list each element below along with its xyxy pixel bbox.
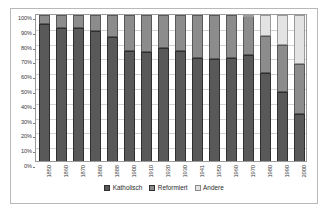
bar-stack [39,15,51,161]
legend-item[interactable]: Reformiert [149,185,187,191]
bar-segment-reformiert[interactable] [107,15,119,37]
y-tick-label: 70% [21,61,32,67]
plot-area [35,14,307,162]
bar-stack [294,15,306,161]
bar-segment-katholisch[interactable] [226,58,238,162]
bar-column[interactable] [56,15,68,161]
bar-column[interactable] [175,15,187,161]
bar-segment-katholisch[interactable] [141,52,153,162]
legend-item[interactable]: Katholisch [104,185,142,191]
y-axis: 100%90%80%70%60%50%40%30%20%10%0% [11,14,35,162]
x-tick-label: 1980 [267,165,273,178]
bar-segment-katholisch[interactable] [73,28,85,162]
bar-stack [107,15,119,161]
x-tick-label: 1930 [182,165,188,178]
bar-column[interactable] [90,15,102,161]
bar-segment-katholisch[interactable] [39,24,51,162]
bar-column[interactable] [294,15,306,161]
bar-segment-reformiert[interactable] [124,15,136,51]
x-tick-label: 1900 [131,165,137,178]
bar-segment-katholisch[interactable] [90,31,102,162]
legend-label: Andere [203,185,224,191]
x-tick-label: 1941 [199,165,205,178]
bar-segment-reformiert[interactable] [294,64,306,114]
bar-column[interactable] [107,15,119,161]
bar-segment-andere[interactable] [277,15,289,45]
legend-label: Katholisch [113,185,143,191]
y-tick-label: 60% [21,75,32,81]
bar-segment-katholisch[interactable] [260,73,272,162]
bar-column[interactable] [39,15,51,161]
bar-segment-reformiert[interactable] [209,15,221,59]
bar-segment-reformiert[interactable] [226,15,238,58]
bar-column[interactable] [158,15,170,161]
bar-segment-reformiert[interactable] [90,15,102,31]
chart-legend: KatholischReformiertAndere [11,185,317,191]
bar-stack [277,15,289,161]
chart-frame: 100%90%80%70%60%50%40%30%20%10%0% 185018… [10,8,318,204]
bar-column[interactable] [192,15,204,161]
y-tick-label: 90% [21,31,32,37]
legend-swatch-icon [149,185,155,191]
x-tick-label: 1990 [284,165,290,178]
bar-segment-katholisch[interactable] [192,58,204,162]
bar-column[interactable] [260,15,272,161]
x-tick-label: 1950 [216,165,222,178]
y-tick-label: 20% [21,135,32,141]
x-tick-label: 1910 [148,165,154,178]
bar-column[interactable] [209,15,221,161]
bar-column[interactable] [73,15,85,161]
bar-segment-reformiert[interactable] [175,15,187,51]
plot-wrap [35,14,307,162]
bar-segment-reformiert[interactable] [56,15,68,28]
bar-stack [175,15,187,161]
bar-column[interactable] [243,15,255,161]
bar-segment-katholisch[interactable] [107,37,119,162]
bar-segment-reformiert[interactable] [141,15,153,52]
bar-stack [141,15,153,161]
bar-segment-reformiert[interactable] [39,15,51,24]
y-tick-label: 0% [24,164,32,170]
bar-segment-katholisch[interactable] [243,55,255,162]
bar-stack [56,15,68,161]
bar-segment-katholisch[interactable] [277,92,289,162]
y-tick-label: 50% [21,90,32,96]
legend-swatch-icon [195,185,201,191]
bar-segment-katholisch[interactable] [175,51,187,162]
x-tick-label: 1860 [63,165,69,178]
bar-segment-katholisch[interactable] [209,59,221,162]
x-tick-label: 1888 [114,165,120,178]
x-tick-label: 2000 [301,165,307,178]
bar-column[interactable] [124,15,136,161]
x-tick-label: 1870 [80,165,86,178]
x-tick-label: 1920 [165,165,171,178]
x-tick-label: 1960 [233,165,239,178]
bar-stack [124,15,136,161]
bar-segment-katholisch[interactable] [124,51,136,162]
bar-segment-reformiert[interactable] [158,15,170,48]
bar-segment-katholisch[interactable] [294,114,306,162]
bar-stack [209,15,221,161]
bar-column[interactable] [226,15,238,161]
bar-segment-reformiert[interactable] [260,36,272,73]
bar-segment-andere[interactable] [294,15,306,64]
bar-column[interactable] [277,15,289,161]
bar-stack [226,15,238,161]
bar-segment-reformiert[interactable] [192,15,204,58]
y-tick-label: 100% [18,16,32,22]
bar-segment-reformiert[interactable] [277,45,289,92]
bar-segment-katholisch[interactable] [56,28,68,162]
bar-segment-andere[interactable] [260,15,272,36]
bar-segment-katholisch[interactable] [158,48,170,162]
bar-stack [192,15,204,161]
y-tick-label: 80% [21,46,32,52]
bar-column[interactable] [141,15,153,161]
bar-segment-reformiert[interactable] [73,15,85,28]
y-tick-label: 30% [21,120,32,126]
bar-segment-andere[interactable] [243,15,255,17]
x-tick-label: 1880 [97,165,103,178]
bar-segment-reformiert[interactable] [243,16,255,54]
legend-item[interactable]: Andere [195,185,224,191]
legend-label: Reformiert [158,185,188,191]
bar-stack [260,15,272,161]
